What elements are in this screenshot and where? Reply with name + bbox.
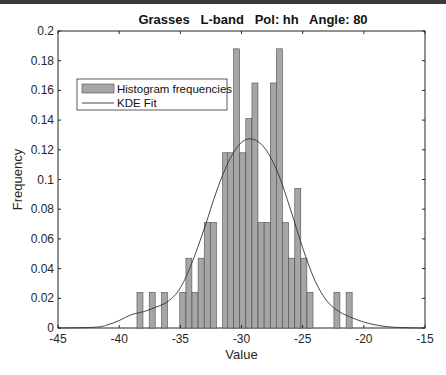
histogram-bar xyxy=(240,153,246,328)
histogram-bar xyxy=(289,258,295,328)
histogram-bar xyxy=(258,223,264,328)
histogram-bar xyxy=(210,223,216,328)
x-tick-label: -15 xyxy=(416,332,434,346)
y-axis-label: Frequency xyxy=(10,148,25,210)
histogram-bar xyxy=(227,153,233,328)
histogram-bar xyxy=(252,83,258,328)
histogram-bar xyxy=(204,223,210,328)
y-tick-label: 0.14 xyxy=(31,113,55,127)
histogram-bar xyxy=(180,292,186,328)
legend-label-kde: KDE Fit xyxy=(117,97,157,109)
histogram-bar xyxy=(234,49,240,328)
x-axis-label: Value xyxy=(225,347,257,362)
x-tick-label: -20 xyxy=(355,332,373,346)
histogram-bar xyxy=(161,292,167,328)
histogram-bar xyxy=(307,292,313,328)
histogram-bar xyxy=(283,223,289,328)
y-tick-label: 0.02 xyxy=(31,291,55,305)
y-tick-label: 0.12 xyxy=(31,143,55,157)
x-tick-label: -40 xyxy=(110,332,128,346)
y-tick-label: 0.04 xyxy=(31,262,55,276)
histogram-bar xyxy=(246,119,252,328)
x-tick-label: -25 xyxy=(294,332,312,346)
histogram-bar xyxy=(301,258,307,328)
legend-label-histogram: Histogram frequencies xyxy=(117,83,232,95)
histogram-bar xyxy=(149,292,155,328)
y-tick-label: 0.1 xyxy=(37,173,54,187)
y-tick-label: 0 xyxy=(47,321,54,335)
histogram-bar xyxy=(198,258,204,328)
histogram-bar xyxy=(264,223,270,328)
histogram-bar xyxy=(346,292,352,328)
x-tick-label: -35 xyxy=(172,332,190,346)
histogram-bar xyxy=(186,258,192,328)
histogram-bar xyxy=(270,83,276,328)
y-tick-label: 0.2 xyxy=(37,24,54,38)
y-tick-label: 0.18 xyxy=(31,54,55,68)
histogram-bar xyxy=(137,292,143,328)
histogram-bar xyxy=(192,292,198,328)
histogram-bar xyxy=(276,49,282,328)
histogram-bar xyxy=(295,188,301,328)
legend-swatch-histogram xyxy=(82,84,114,93)
x-tick-label: -30 xyxy=(233,332,251,346)
y-tick-label: 0.08 xyxy=(31,202,55,216)
y-tick-label: 0.06 xyxy=(31,232,55,246)
y-tick-label: 0.16 xyxy=(31,83,55,97)
chart-canvas: -45-40-35-30-25-20-1500.020.040.060.080.… xyxy=(0,0,446,375)
